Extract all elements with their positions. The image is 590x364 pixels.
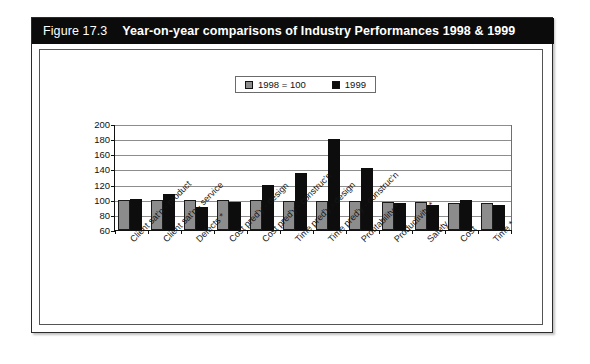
bar-1998 xyxy=(118,200,130,230)
bar-1998 xyxy=(481,203,493,230)
bar-group xyxy=(115,125,148,230)
y-tick-label: 80 xyxy=(84,211,110,221)
bar-1999 xyxy=(328,139,340,230)
y-tick-label: 60 xyxy=(84,226,110,236)
y-tick-label: 140 xyxy=(84,166,110,176)
figure-frame: Figure 17.3 Year-on-year comparisons of … xyxy=(31,17,553,333)
x-axis-labels: Client sat'n - productClient sat'n - ser… xyxy=(114,231,534,326)
plot-wrapper: 6080100120140160180200 Client sat'n - pr… xyxy=(40,50,544,326)
chart-card: 1998 = 100 1999 6080100120140160180200 C… xyxy=(39,49,543,325)
figure-title: Figure 17.3 Year-on-year comparisons of … xyxy=(32,24,515,38)
y-tick-label: 180 xyxy=(84,135,110,145)
y-axis: 6080100120140160180200 xyxy=(80,125,110,231)
y-tick-label: 160 xyxy=(84,151,110,161)
figure-title-text: Year-on-year comparisons of Industry Per… xyxy=(122,24,515,38)
bar-group xyxy=(445,125,478,230)
figure-title-bar: Figure 17.3 Year-on-year comparisons of … xyxy=(32,18,554,44)
y-tick-label: 120 xyxy=(84,181,110,191)
figure-number: Figure 17.3 xyxy=(43,24,107,38)
y-tick-label: 200 xyxy=(84,120,110,130)
y-tick-label: 100 xyxy=(84,196,110,206)
bar-group xyxy=(478,125,511,230)
